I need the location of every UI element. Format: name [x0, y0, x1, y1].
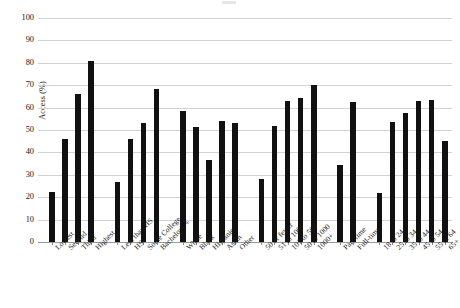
bar: [403, 113, 409, 242]
bar: [75, 94, 81, 242]
bar: [88, 61, 94, 242]
bar: [259, 179, 265, 242]
bar: [206, 160, 212, 242]
bar: [311, 85, 317, 242]
bar: [193, 127, 199, 242]
bar: [219, 121, 225, 242]
bar: [154, 89, 160, 242]
bar: [62, 139, 68, 242]
bar: [337, 165, 343, 242]
bar-chart: Access (%) 0102030405060708090100 Lowest…: [0, 0, 460, 308]
plot-area: 0102030405060708090100: [38, 18, 452, 242]
bar: [232, 123, 238, 242]
y-tick-label: 0: [30, 238, 34, 246]
bar: [429, 100, 435, 242]
y-tick-label: 100: [21, 14, 34, 22]
bar: [416, 101, 422, 242]
bar: [128, 139, 134, 242]
y-tick-label: 30: [26, 171, 34, 179]
bar: [390, 122, 396, 242]
bars-layer: [38, 18, 452, 242]
bar: [298, 98, 304, 242]
bar: [49, 192, 55, 242]
y-tick-label: 80: [26, 59, 34, 67]
y-tick-label: 40: [26, 148, 34, 156]
y-tick-label: 90: [26, 36, 34, 44]
y-tick-label: 60: [26, 103, 34, 111]
bar: [442, 141, 448, 242]
x-axis-labels: LowestSecondThirdHighestLess than HSHSSo…: [38, 246, 452, 308]
y-tick-label: 50: [26, 126, 34, 134]
bar: [272, 126, 278, 242]
bar: [350, 102, 356, 242]
y-tick-label: 70: [26, 81, 34, 89]
y-tick-label: 10: [26, 215, 34, 223]
title-artifact: [222, 1, 236, 4]
y-tick-label: 20: [26, 193, 34, 201]
